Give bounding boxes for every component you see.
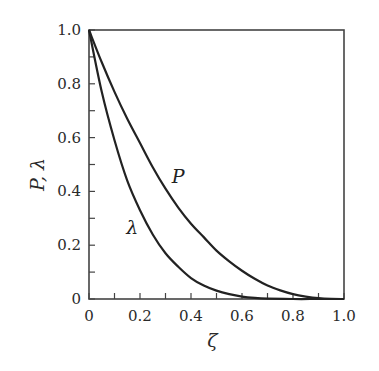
y-tick-label: 0.4 [57, 182, 81, 200]
y-tick-label: 0 [71, 290, 81, 308]
x-tick-label: 0.8 [281, 307, 305, 325]
x-tick-label: 0.6 [230, 307, 254, 325]
y-tick-label: 0.2 [57, 236, 81, 254]
curve-label-lambda: λ [125, 216, 138, 238]
x-tick-label: 0.2 [128, 307, 152, 325]
plot-area [89, 30, 344, 299]
y-tick-label: 1.0 [57, 21, 81, 39]
y-tick-label: 0.8 [57, 75, 81, 93]
plot-frame [89, 30, 344, 299]
curve-p [89, 30, 344, 299]
chart: 00.20.40.60.81.000.20.40.60.81.0ζP, λPλ [0, 0, 379, 371]
y-tick-label: 0.6 [57, 129, 81, 147]
x-tick-label: 0.4 [179, 307, 203, 325]
curve-label-p: P [171, 165, 186, 187]
labels: 00.20.40.60.81.000.20.40.60.81.0ζP, λPλ [26, 21, 356, 351]
x-tick-label: 0 [84, 307, 94, 325]
x-tick-label: 1.0 [332, 307, 356, 325]
x-axis-label: ζ [207, 329, 219, 351]
curves [89, 30, 344, 299]
y-axis-label: P, λ [26, 158, 48, 192]
curve-lambda [89, 30, 344, 299]
